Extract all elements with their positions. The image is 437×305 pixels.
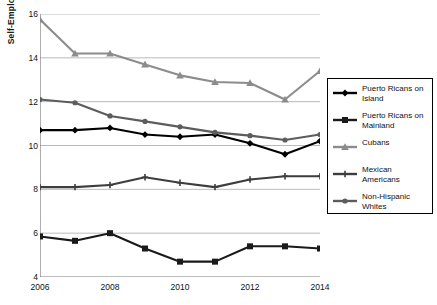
data-point-cross <box>247 176 253 182</box>
data-point-cross <box>317 173 320 179</box>
data-point-square <box>282 243 288 249</box>
data-point-square <box>72 238 78 244</box>
data-point-square <box>107 230 113 236</box>
data-point-diamond <box>282 151 289 158</box>
x-tick-label: 2014 <box>311 282 330 292</box>
y-tick-label: 8 <box>33 184 38 194</box>
chart-svg <box>40 14 320 277</box>
data-point-square <box>40 233 43 239</box>
x-axis-tick-labels: 20062008201020122014 <box>0 280 437 302</box>
y-tick-label: 12 <box>29 97 38 107</box>
series-line <box>40 128 320 154</box>
data-point-circle <box>72 100 77 105</box>
data-point-square <box>342 117 348 123</box>
data-point-cross <box>282 173 288 179</box>
data-point-circle <box>142 119 147 124</box>
plot-area <box>40 14 320 277</box>
legend-item-puerto-ricans-on-mainland[interactable]: Puerto Ricans on Mainland <box>332 111 428 135</box>
legend-marker-circle-icon <box>332 193 358 205</box>
series-line <box>40 19 320 99</box>
legend-item-mexican-americans[interactable]: Mexican Americans <box>332 165 428 189</box>
data-point-diamond <box>142 131 149 138</box>
y-axis-title: Self-Employment Rate (%) <box>6 0 16 64</box>
legend-label: Puerto Ricans on Island <box>362 84 428 103</box>
series-cubans <box>40 16 320 103</box>
legend-marker-triangle-icon <box>332 139 358 151</box>
y-tick-label: 14 <box>29 53 38 63</box>
y-tick-label: 6 <box>33 228 38 238</box>
data-point-diamond <box>72 127 79 134</box>
data-point-square <box>317 246 320 252</box>
legend-marker-square-icon <box>332 112 358 124</box>
series-line <box>40 233 320 261</box>
series-puerto-ricans-on-island <box>40 125 320 158</box>
data-point-cross <box>107 182 113 188</box>
series-mexican-americans <box>40 173 320 190</box>
legend-label: Cubans <box>362 138 390 148</box>
data-point-circle <box>317 132 320 137</box>
data-point-square <box>247 243 253 249</box>
x-tick-label: 2006 <box>31 282 50 292</box>
data-point-diamond <box>107 125 114 132</box>
chart-figure: Self-Employment Rate (%) 46810121416 200… <box>0 0 437 305</box>
legend-item-cubans[interactable]: Cubans <box>332 138 428 162</box>
data-point-cross <box>142 174 148 180</box>
legend-label: Non-Hispanic Whites <box>362 192 428 211</box>
data-point-circle <box>282 137 287 142</box>
data-point-square <box>142 246 148 252</box>
legend-item-puerto-ricans-on-island[interactable]: Puerto Ricans on Island <box>332 84 428 108</box>
legend-label: Puerto Ricans on Mainland <box>362 111 428 130</box>
data-point-square <box>177 259 183 265</box>
legend-label: Mexican Americans <box>362 165 428 184</box>
series-puerto-ricans-on-mainland <box>40 230 320 264</box>
data-point-circle <box>247 133 252 138</box>
data-point-cross <box>177 180 183 186</box>
data-point-triangle <box>316 67 320 74</box>
data-point-diamond <box>177 133 184 140</box>
data-point-cross <box>342 171 348 177</box>
y-tick-label: 10 <box>29 141 38 151</box>
data-point-circle <box>177 124 182 129</box>
data-point-circle <box>107 113 112 118</box>
chart-legend: Puerto Ricans on IslandPuerto Ricans on … <box>327 78 433 214</box>
legend-marker-diamond-icon <box>332 85 358 97</box>
legend-item-non-hispanic-whites[interactable]: Non-Hispanic Whites <box>332 192 428 216</box>
x-tick-label: 2012 <box>241 282 260 292</box>
y-axis-tick-labels: 46810121416 <box>18 0 38 290</box>
data-point-diamond <box>40 127 43 134</box>
data-point-diamond <box>342 90 349 97</box>
data-point-circle <box>212 130 217 135</box>
legend-marker-cross-icon <box>332 166 358 178</box>
y-tick-label: 16 <box>29 9 38 19</box>
x-tick-label: 2010 <box>171 282 190 292</box>
x-tick-label: 2008 <box>101 282 120 292</box>
data-point-square <box>212 259 218 265</box>
data-point-circle <box>342 198 347 203</box>
data-point-diamond <box>317 138 320 145</box>
